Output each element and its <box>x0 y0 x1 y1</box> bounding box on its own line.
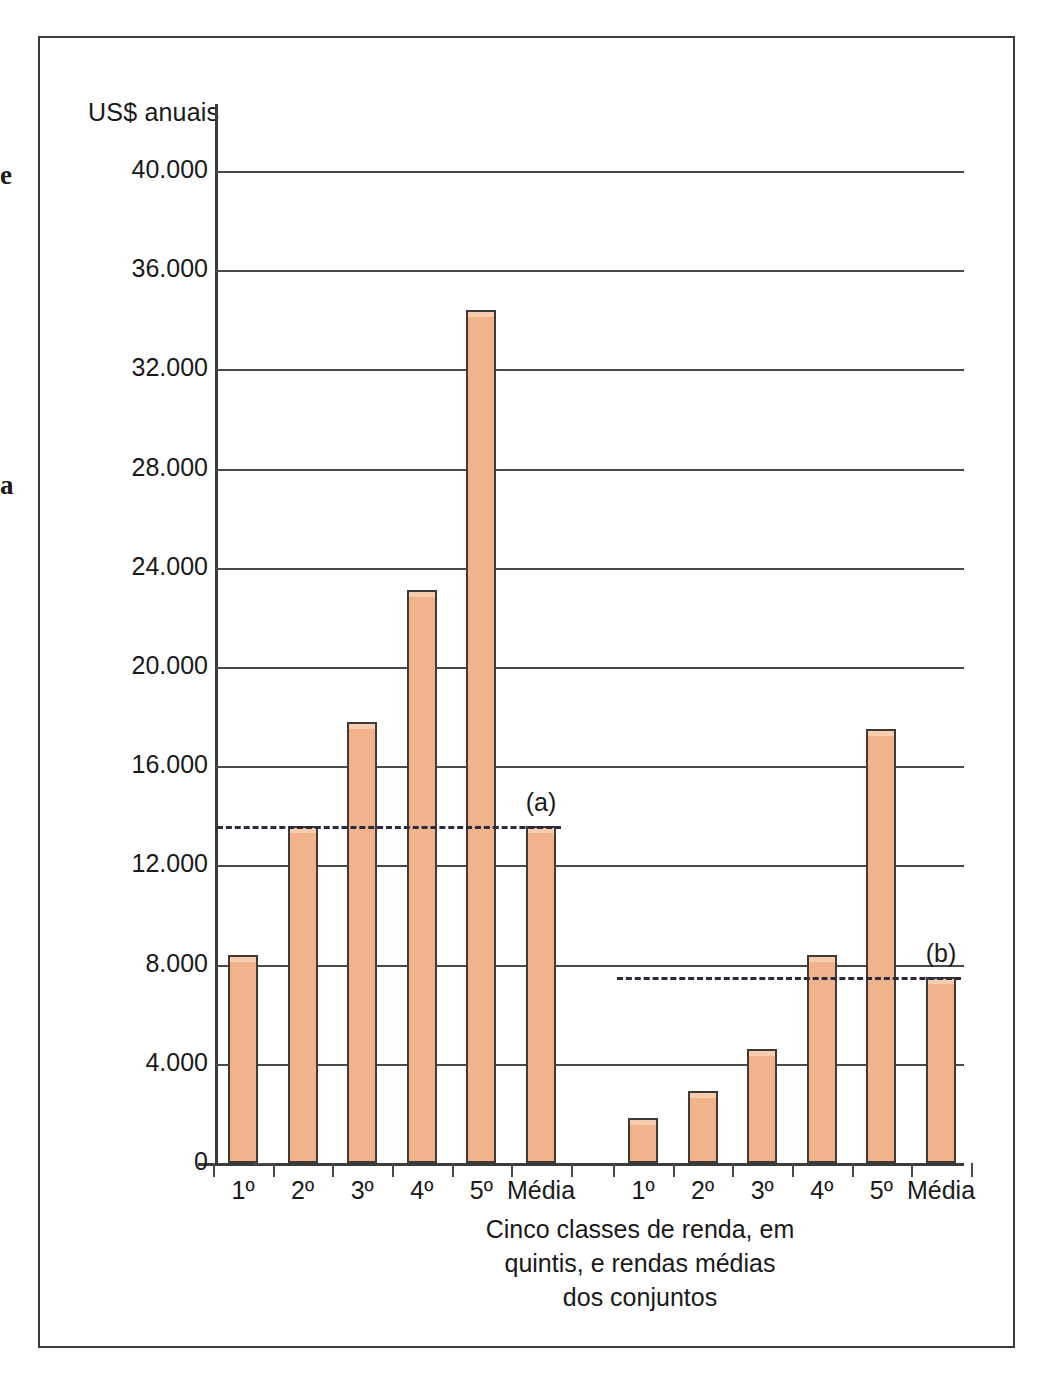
margin-glyph: e <box>0 160 12 191</box>
margin-glyph: a <box>0 470 14 501</box>
figure-frame <box>38 36 1015 1348</box>
